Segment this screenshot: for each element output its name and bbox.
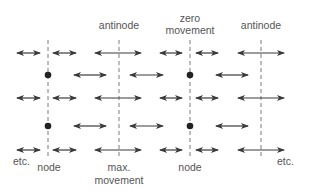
node-dot-icon	[45, 123, 52, 130]
standing-wave-diagram: antinode zero movement antinode etc. nod…	[0, 0, 314, 195]
displacement-arrows	[17, 53, 284, 150]
node-dot-icon	[187, 123, 194, 130]
label-zero-movement-line2: movement	[165, 24, 214, 37]
label-max-movement-line1: max.	[108, 161, 131, 174]
label-node-2: node	[178, 161, 201, 174]
label-zero-movement-line1: zero	[180, 12, 200, 25]
dashed-reference-lines	[48, 40, 261, 158]
label-node-1: node	[37, 161, 60, 174]
label-etc-left: etc.	[13, 155, 30, 168]
node-dot-icon	[187, 72, 194, 79]
label-max-movement-line2: movement	[94, 174, 143, 187]
node-dot-icon	[45, 72, 52, 79]
label-etc-right: etc.	[277, 155, 294, 168]
label-antinode-top-1: antinode	[99, 19, 139, 32]
label-antinode-top-2: antinode	[241, 19, 281, 32]
